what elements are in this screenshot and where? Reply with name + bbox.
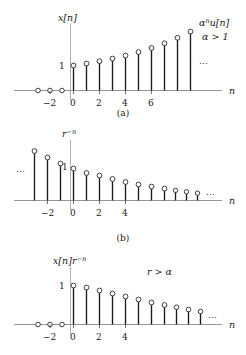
stem-series-c bbox=[71, 283, 203, 324]
ellipsis-c: ⋯ bbox=[208, 313, 218, 323]
xtick-label: 4 bbox=[122, 98, 128, 108]
figure-container: x[n] n 1 αnu[n] α > 1 ⋯ −2 0 2 4 6 (a) bbox=[0, 0, 246, 355]
xtick-label: 2 bbox=[96, 98, 102, 108]
sample-marker-zero bbox=[60, 88, 65, 93]
x-ticks-b bbox=[48, 201, 126, 205]
annotation-alpha-n-u-n: αnu[n] bbox=[199, 17, 230, 29]
xtick-label: −2 bbox=[43, 98, 56, 108]
one-label-c: 1 bbox=[59, 281, 65, 291]
stem-series-b bbox=[32, 149, 200, 201]
xtick-label: 0 bbox=[70, 98, 76, 108]
y-axis-label-b: r−n bbox=[62, 128, 76, 140]
xtick-label: −2 bbox=[41, 208, 54, 218]
panel-b: r−n n 1 ⋯ ⋯ −2 0 2 4 bbox=[0, 118, 246, 243]
x-axis-label-b: n bbox=[229, 195, 235, 206]
xtick-label: −2 bbox=[43, 332, 56, 342]
xtick-label: 0 bbox=[70, 332, 76, 342]
caption-a: (a) bbox=[0, 108, 246, 118]
ellipsis-b-left: ⋯ bbox=[16, 167, 26, 177]
xtick-label: 0 bbox=[70, 208, 76, 218]
x-axis-label-a: n bbox=[229, 85, 235, 96]
x-axis-label-c: n bbox=[229, 319, 235, 330]
caption-b: (b) bbox=[0, 233, 246, 243]
annotation-r-gt-alpha: r > α bbox=[147, 266, 173, 277]
xtick-label: 2 bbox=[96, 208, 102, 218]
sample-marker-zero bbox=[36, 88, 41, 93]
stem-series-a bbox=[71, 29, 193, 90]
panel-a-plot: x[n] n 1 αnu[n] α > 1 ⋯ −2 0 2 4 6 bbox=[0, 0, 246, 118]
sample-marker-zero bbox=[60, 322, 65, 327]
x-ticks-a bbox=[50, 91, 152, 95]
ellipsis-b-right: ⋯ bbox=[206, 190, 216, 200]
one-label-a: 1 bbox=[59, 61, 65, 71]
panel-a: x[n] n 1 αnu[n] α > 1 ⋯ −2 0 2 4 6 bbox=[0, 0, 246, 118]
one-label-b: 1 bbox=[62, 162, 68, 172]
annotation-alpha-gt-1: α > 1 bbox=[202, 31, 228, 42]
y-axis-label-c: x[n]r−n bbox=[53, 255, 86, 267]
xtick-label: 2 bbox=[96, 332, 102, 342]
sample-marker-zero bbox=[36, 322, 41, 327]
xtick-label: 4 bbox=[122, 208, 128, 218]
xtick-label: 6 bbox=[148, 98, 154, 108]
panel-c: x[n]r−n n 1 r > α ⋯ −2 0 2 4 bbox=[0, 243, 246, 355]
y-axis-label-a: x[n] bbox=[58, 12, 77, 23]
xtick-label: 4 bbox=[122, 332, 128, 342]
ellipsis-a: ⋯ bbox=[199, 59, 209, 69]
panel-b-plot: r−n n 1 ⋯ ⋯ −2 0 2 4 bbox=[0, 118, 246, 243]
panel-c-plot: x[n]r−n n 1 r > α ⋯ −2 0 2 4 bbox=[0, 243, 246, 355]
